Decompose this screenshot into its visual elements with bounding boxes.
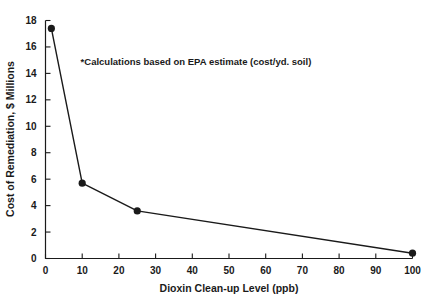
y-tick-label: 12 bbox=[25, 94, 37, 105]
data-point-marker bbox=[134, 207, 141, 214]
y-tick-label: 18 bbox=[25, 15, 37, 26]
x-tick-label: 70 bbox=[297, 265, 309, 276]
x-tick-label: 0 bbox=[43, 265, 49, 276]
y-tick-label: 16 bbox=[25, 41, 37, 52]
x-tick-label: 30 bbox=[150, 265, 162, 276]
y-axis-tick-labels: 024681012141618 bbox=[25, 15, 37, 264]
x-tick-label: 20 bbox=[113, 265, 125, 276]
y-tick-label: 14 bbox=[25, 68, 37, 79]
y-tick-label: 2 bbox=[31, 227, 37, 238]
x-tick-label: 60 bbox=[260, 265, 272, 276]
y-tick-label: 6 bbox=[31, 174, 37, 185]
x-tick-label: 10 bbox=[77, 265, 89, 276]
x-axis-tick-marks bbox=[46, 254, 413, 259]
x-tick-label: 40 bbox=[187, 265, 199, 276]
x-tick-label: 90 bbox=[370, 265, 382, 276]
data-point-marker bbox=[48, 25, 55, 32]
y-tick-label: 0 bbox=[31, 253, 37, 264]
x-tick-label: 50 bbox=[223, 265, 235, 276]
data-point-marker bbox=[79, 180, 86, 187]
chart-container: 0102030405060708090100 024681012141618 D… bbox=[0, 0, 429, 303]
chart-annotation-note: *Calculations based on EPA estimate (cos… bbox=[81, 56, 312, 67]
x-axis-tick-labels: 0102030405060708090100 bbox=[43, 265, 422, 276]
x-axis-title: Dioxin Clean-up Level (ppb) bbox=[160, 282, 299, 294]
data-point-marker bbox=[409, 250, 416, 257]
remediation-cost-line-chart: 0102030405060708090100 024681012141618 D… bbox=[0, 0, 429, 303]
x-tick-label: 80 bbox=[334, 265, 346, 276]
y-axis-title: Cost of Remediation, $ Millions bbox=[4, 61, 16, 217]
chart-annotations: *Calculations based on EPA estimate (cos… bbox=[81, 56, 312, 67]
y-tick-label: 10 bbox=[25, 121, 37, 132]
x-tick-label: 100 bbox=[404, 265, 421, 276]
y-tick-label: 4 bbox=[31, 200, 37, 211]
y-tick-label: 8 bbox=[31, 147, 37, 158]
y-axis-tick-marks bbox=[46, 21, 51, 259]
